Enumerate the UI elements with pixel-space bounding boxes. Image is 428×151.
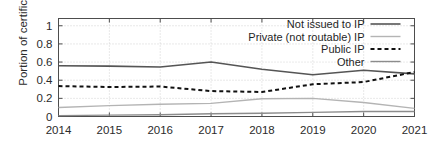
legend-label-3: Other: [337, 56, 365, 68]
x-tick-label-2018: 2018: [249, 124, 275, 136]
y-tick-label-0: 0: [46, 111, 52, 123]
legend-label-0: Not issued to IP: [287, 18, 365, 30]
series-line-2: [59, 72, 415, 92]
series-line-1: [59, 98, 415, 108]
chart-figure: Portion of certificates 00.20.40.60.8120…: [0, 0, 428, 151]
y-tick-label-1: 1: [46, 20, 52, 32]
x-tick-label-2021: 2021: [402, 124, 428, 136]
legend-label-1: Private (not routable) IP: [248, 31, 364, 43]
legend-label-2: Public IP: [321, 43, 364, 55]
x-tick-label-2014: 2014: [46, 124, 72, 136]
x-tick-label-2017: 2017: [198, 124, 224, 136]
x-tick-label-2015: 2015: [97, 124, 123, 136]
x-tick-label-2016: 2016: [147, 124, 173, 136]
x-tick-label-2020: 2020: [351, 124, 377, 136]
y-tick-label-0.8: 0.8: [37, 38, 53, 50]
line-chart-plot: 00.20.40.60.8120142015201620172018201920…: [0, 0, 428, 151]
y-tick-label-0.2: 0.2: [37, 92, 53, 104]
y-tick-label-0.4: 0.4: [37, 74, 54, 86]
series-line-3: [59, 112, 415, 116]
y-tick-label-0.6: 0.6: [37, 56, 53, 68]
x-tick-label-2019: 2019: [300, 124, 326, 136]
